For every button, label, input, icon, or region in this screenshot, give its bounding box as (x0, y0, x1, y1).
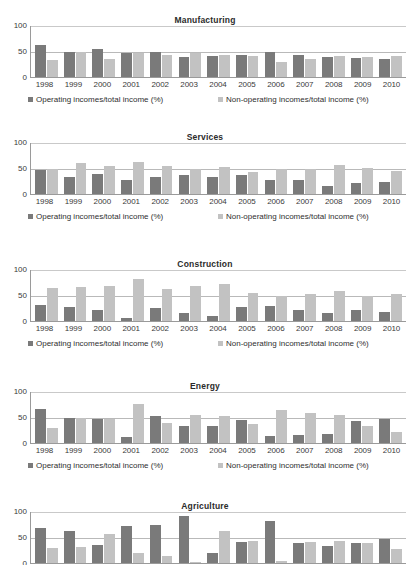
y-axis-tick: 100 (0, 22, 27, 30)
bar-operating (121, 437, 132, 443)
x-axis-tick: 2000 (88, 195, 117, 209)
x-axis-tick: 2002 (146, 78, 175, 92)
bar-group (319, 392, 348, 443)
bar-group (89, 270, 118, 321)
bar-operating (379, 182, 390, 194)
legend-item[interactable]: Non-operating incomes/total income (%) (218, 212, 369, 221)
bar-operating (265, 180, 276, 194)
legend-swatch-operating-icon (28, 463, 33, 468)
bar-operating (150, 52, 161, 77)
legend-item[interactable]: Non-operating incomes/total income (%) (218, 339, 369, 348)
x-axis-tick: 2002 (146, 444, 175, 458)
plot-area: 050100 (30, 26, 406, 78)
bar-non-operating (305, 413, 316, 443)
y-axis-tick: 100 (0, 388, 27, 396)
legend-swatch-non-operating-icon (218, 341, 223, 346)
plot-area: 050100 (30, 512, 406, 564)
x-axis-tick: 2003 (175, 195, 204, 209)
y-axis-tick: 50 (0, 292, 27, 300)
y-axis: 050100 (0, 143, 27, 195)
bar-group (262, 392, 291, 443)
bar-group (32, 143, 61, 194)
legend-label: Non-operating incomes/total income (%) (226, 339, 369, 348)
bar-group (118, 143, 147, 194)
x-axis-tick: 2004 (204, 444, 233, 458)
bar-operating (351, 310, 362, 321)
x-axis-tick: 2008 (319, 78, 348, 92)
x-axis-tick: 1998 (30, 444, 59, 458)
bar-non-operating (76, 163, 87, 194)
bar-group (233, 270, 262, 321)
x-axis-tick: 2008 (319, 195, 348, 209)
x-axis-tick: 1998 (30, 78, 59, 92)
x-axis-tick: 2010 (377, 444, 406, 458)
x-axis-tick: 2008 (319, 322, 348, 336)
bar-group (376, 143, 405, 194)
x-axis-tick: 2000 (88, 322, 117, 336)
chart-legend: Operating incomes/total income (%)Non-op… (28, 336, 406, 350)
legend-item[interactable]: Operating incomes/total income (%) (28, 212, 218, 221)
bar-non-operating (305, 59, 316, 77)
bar-non-operating (219, 55, 230, 77)
bar-operating (64, 52, 75, 77)
chart-legend: Operating incomes/total income (%)Non-op… (28, 92, 406, 106)
x-axis-tick: 2005 (232, 322, 261, 336)
legend-item[interactable]: Non-operating incomes/total income (%) (218, 461, 369, 470)
plot-canvas (30, 512, 406, 564)
x-axis-tick: 2004 (204, 195, 233, 209)
bar-non-operating (362, 168, 373, 194)
legend-item[interactable]: Non-operating incomes/total income (%) (218, 95, 369, 104)
plot-canvas (30, 26, 406, 78)
bar-operating (121, 180, 132, 194)
bar-group (147, 392, 176, 443)
x-axis-tick: 2010 (377, 78, 406, 92)
bar-group (147, 270, 176, 321)
y-axis-tick: 0 (0, 191, 27, 199)
legend-swatch-non-operating-icon (218, 97, 223, 102)
bar-group (376, 270, 405, 321)
bar-group (89, 143, 118, 194)
x-axis-tick: 2000 (88, 78, 117, 92)
bar-operating (207, 177, 218, 194)
bar-non-operating (47, 60, 58, 77)
bar-group (233, 26, 262, 77)
bar-operating (322, 57, 333, 77)
bar-non-operating (104, 59, 115, 77)
x-axis: 1998199920002001200220032004200520062007… (30, 78, 406, 92)
legend-item[interactable]: Operating incomes/total income (%) (28, 339, 218, 348)
legend-item[interactable]: Operating incomes/total income (%) (28, 461, 218, 470)
bar-operating (236, 420, 247, 443)
x-axis-tick: 2009 (348, 195, 377, 209)
chart-title: Energy (0, 380, 410, 392)
bar-group (89, 392, 118, 443)
bar-group (233, 143, 262, 194)
y-axis-tick: 50 (0, 48, 27, 56)
bar-non-operating (391, 432, 402, 443)
bar-group (376, 512, 405, 563)
bar-non-operating (133, 53, 144, 77)
bar-operating (92, 545, 103, 563)
legend-swatch-non-operating-icon (218, 214, 223, 219)
bar-group (175, 512, 204, 563)
legend-swatch-non-operating-icon (218, 463, 223, 468)
bar-operating (322, 186, 333, 194)
chart-title: Construction (0, 258, 410, 270)
bar-operating (35, 45, 46, 77)
bar-non-operating (76, 287, 87, 321)
bar-non-operating (133, 279, 144, 321)
bar-non-operating (248, 541, 259, 563)
bar-group (233, 512, 262, 563)
bar-non-operating (248, 56, 259, 77)
bar-operating (35, 305, 46, 321)
x-axis-tick: 1999 (59, 444, 88, 458)
x-axis-tick: 1999 (59, 78, 88, 92)
y-axis-tick: 0 (0, 440, 27, 448)
bar-operating (92, 419, 103, 443)
x-axis-tick: 2008 (319, 444, 348, 458)
bar-group (348, 26, 377, 77)
x-axis-tick: 1998 (30, 195, 59, 209)
bar-group (147, 26, 176, 77)
legend-item[interactable]: Operating incomes/total income (%) (28, 95, 218, 104)
bar-non-operating (133, 553, 144, 563)
bar-group (290, 143, 319, 194)
